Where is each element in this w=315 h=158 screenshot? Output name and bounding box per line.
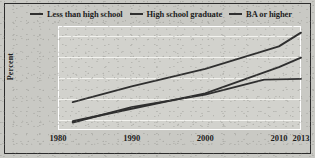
chart-legend: Less than high school High school gradua… xyxy=(30,7,308,21)
chart-figure: Less than high school High school gradua… xyxy=(0,0,315,158)
gridline-horizontal xyxy=(59,120,300,121)
legend-line-swatch-icon xyxy=(229,13,242,16)
legend-line-swatch-icon xyxy=(30,13,43,16)
x-axis-tick-label: 1990 xyxy=(112,133,152,143)
legend-label: High school graduate xyxy=(147,9,222,19)
legend-item-less-than-high-school: Less than high school xyxy=(30,9,123,19)
legend-item-high-school-graduate: High school graduate xyxy=(130,9,222,19)
gridline-horizontal xyxy=(59,57,300,58)
y-axis-title: Percent xyxy=(6,41,15,93)
plot-area xyxy=(58,26,301,130)
legend-line-swatch-icon xyxy=(130,13,143,16)
gridline-horizontal xyxy=(59,36,300,37)
gridline-horizontal xyxy=(59,78,300,79)
legend-item-ba-or-higher: BA or higher xyxy=(229,9,292,19)
legend-label: Less than high school xyxy=(47,9,123,19)
legend-label: BA or higher xyxy=(246,9,292,19)
gridline-horizontal xyxy=(59,99,300,100)
x-axis-tick-label: 2000 xyxy=(185,133,225,143)
x-axis-tick-label: 1980 xyxy=(38,133,78,143)
x-axis-tick-label: 2013 xyxy=(281,133,315,143)
